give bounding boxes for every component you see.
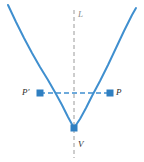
point-label-p: P (116, 88, 122, 97)
point-marker-vertex (71, 125, 78, 132)
axis-label-L: L (78, 10, 83, 19)
point-label-p-prime: P′ (22, 88, 29, 97)
figure-canvas (0, 0, 144, 162)
parabola-figure: L P′ P V (0, 0, 144, 162)
vertex-label-v: V (78, 140, 84, 149)
parabola-curve (8, 5, 136, 128)
point-marker-p-prime (37, 90, 44, 97)
point-marker-p (107, 90, 114, 97)
